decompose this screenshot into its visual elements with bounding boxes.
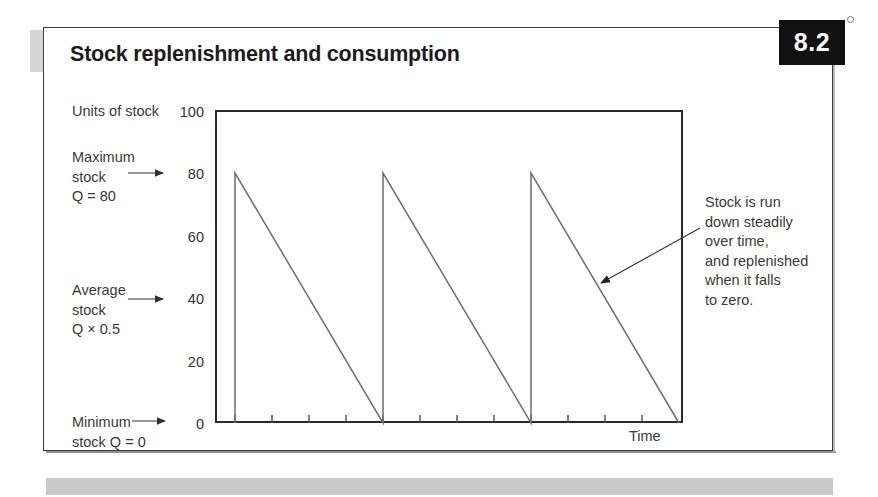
frame-shadow-bottom bbox=[46, 451, 836, 453]
x-axis-ticks bbox=[235, 415, 642, 423]
y-tick-0: 0 bbox=[170, 416, 204, 432]
figure-number-badge: 8.2 bbox=[779, 20, 845, 65]
callout-maximum-stock: Maximum stock Q = 80 bbox=[72, 148, 135, 207]
y-tick-80: 80 bbox=[170, 166, 204, 182]
page-footer-band bbox=[46, 478, 833, 495]
figure-page: 8.2 Stock replenishment and consumption … bbox=[0, 0, 878, 497]
y-axis-units-label: Units of stock bbox=[72, 103, 159, 119]
callout-average-stock: Average stock Q × 0.5 bbox=[72, 281, 126, 340]
x-axis-label: Time bbox=[629, 428, 661, 444]
callout-minimum-stock: Minimum stock Q = 0 bbox=[72, 413, 146, 452]
y-tick-20: 20 bbox=[170, 354, 204, 370]
badge-corner-dot bbox=[847, 16, 854, 23]
y-tick-40: 40 bbox=[170, 291, 204, 307]
page-title: Stock replenishment and consumption bbox=[70, 42, 460, 67]
chart-canvas bbox=[215, 110, 683, 423]
callout-annotation: Stock is run down steadily over time, an… bbox=[705, 193, 835, 310]
stock-level-series bbox=[235, 173, 679, 423]
y-tick-100: 100 bbox=[170, 104, 204, 120]
y-tick-60: 60 bbox=[170, 229, 204, 245]
